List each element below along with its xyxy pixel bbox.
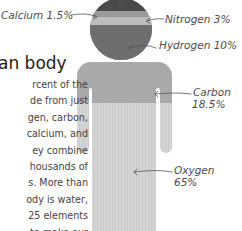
label-calcium: Calcium 1.5%	[1, 9, 73, 21]
section-title: an body	[0, 53, 67, 73]
arrow-oxygen-icon	[134, 171, 172, 173]
label-hydrogen: Hydrogen 10%	[159, 39, 237, 51]
label-oxygen-percent: 65%	[174, 176, 214, 188]
paragraph-line: de from just	[0, 93, 88, 109]
paragraph-line: gen, carbon,	[0, 110, 88, 126]
paragraph-line: ody is water,	[0, 192, 88, 208]
label-carbon-percent: 18.5%	[192, 98, 231, 110]
paragraph-line: calcium, and	[0, 126, 88, 142]
body-paragraph: rcent of the de from just gen, carbon, c…	[0, 77, 88, 231]
arrow-calcium-icon	[71, 14, 96, 17]
label-oxygen: Oxygen 65%	[174, 164, 214, 188]
label-carbon: Carbon 18.5%	[193, 86, 231, 110]
paragraph-line: rcent of the	[0, 77, 88, 93]
arrow-carbon-icon	[155, 93, 191, 94]
arrow-nitrogen-icon	[147, 19, 164, 21]
paragraph-line: housands of	[0, 159, 88, 175]
arrow-hydrogen-icon	[129, 46, 156, 49]
paragraph-line: ey combine	[0, 143, 88, 159]
label-carbon-name: Carbon	[193, 86, 231, 98]
label-nitrogen: Nitrogen 3%	[165, 13, 230, 25]
paragraph-line: 25 elements	[0, 208, 88, 224]
paragraph-line: s. More than	[0, 175, 88, 191]
paragraph-line: to make our	[0, 225, 88, 231]
label-oxygen-name: Oxygen	[174, 164, 214, 176]
